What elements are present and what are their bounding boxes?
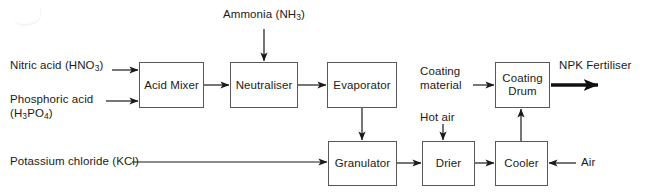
node-coating-drum-label: Coating Drum — [502, 72, 542, 98]
label-coating-material: Coatingmaterial — [420, 65, 474, 92]
node-drier-label: Drier — [436, 157, 461, 170]
node-acid-mixer-label: Acid Mixer — [144, 79, 199, 92]
node-acid-mixer[interactable]: Acid Mixer — [139, 62, 204, 108]
label-ammonia: Ammonia (NH3) — [212, 8, 316, 25]
node-drier[interactable]: Drier — [422, 141, 475, 186]
node-evaporator[interactable]: Evaporator — [327, 62, 397, 108]
node-granulator[interactable]: Granulator — [328, 141, 397, 186]
label-nitric-acid: Nitric acid (HNO3) — [10, 59, 122, 76]
label-hot-air: Hot air — [420, 111, 470, 125]
process-flow-diagram: Acid Mixer Neutraliser Evaporator Coatin… — [0, 0, 656, 196]
label-phosphoric-acid: Phosphoric acid(H3PO4) — [10, 93, 122, 123]
node-cooler[interactable]: Cooler — [495, 141, 548, 186]
label-potassium-chloride: Potassium chloride (KCl) — [10, 155, 140, 169]
label-air: Air — [581, 156, 611, 170]
node-neutraliser-label: Neutraliser — [236, 79, 293, 92]
label-npk-fertiliser: NPK Fertiliser — [559, 59, 653, 73]
node-cooler-label: Cooler — [504, 157, 538, 170]
node-neutraliser[interactable]: Neutraliser — [230, 62, 298, 108]
node-coating-drum[interactable]: Coating Drum — [495, 62, 550, 108]
node-granulator-label: Granulator — [335, 157, 390, 170]
node-evaporator-label: Evaporator — [333, 79, 390, 92]
